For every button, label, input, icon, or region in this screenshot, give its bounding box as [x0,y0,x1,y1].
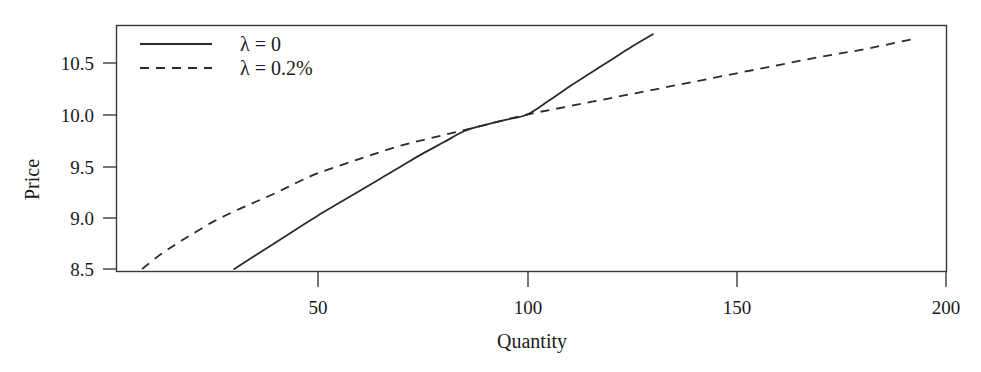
y-axis-title: Price [21,140,44,220]
x-axis-title: Quantity [497,330,567,353]
legend-label-1: λ = 0.2% [240,58,313,78]
legend-label-0: λ = 0 [240,34,281,54]
chart-figure: 10.5 10.0 9.5 9.0 8.5 50 100 150 200 Pri… [0,0,981,372]
y-tick-label-0: 10.5 [28,54,94,73]
x-axis-ticks [318,272,946,288]
x-tick-label-1: 100 [514,298,543,317]
x-tick-label-0: 50 [309,298,328,317]
plot-canvas [0,0,981,372]
y-tick-label-1: 10.0 [28,106,94,125]
x-tick-label-3: 200 [932,298,961,317]
y-axis-ticks [103,63,116,269]
x-tick-label-2: 150 [723,298,752,317]
y-tick-label-4: 8.5 [28,260,94,279]
